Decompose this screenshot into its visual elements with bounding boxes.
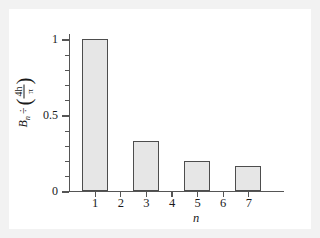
x-tick-label-4: 4 bbox=[162, 197, 182, 210]
y-tick-minor-0.7 bbox=[65, 85, 70, 86]
y-axis-title-variable: B bbox=[16, 120, 30, 127]
y-axis-title-fraction: 4hπ bbox=[13, 84, 34, 98]
x-tick-label-2: 2 bbox=[111, 197, 131, 210]
y-tick-major-0.5 bbox=[62, 115, 69, 116]
bar-n-1 bbox=[82, 39, 108, 191]
y-tick-minor-0.3 bbox=[65, 146, 70, 147]
y-axis-line bbox=[69, 34, 70, 192]
bar-chart: 0 0.5 1 1 2 3 4 5 6 7 Bn÷(4hπ) n bbox=[0, 0, 320, 238]
bar-n-5 bbox=[184, 161, 210, 191]
x-tick-label-3: 3 bbox=[136, 197, 156, 210]
y-tick-minor-0.9 bbox=[65, 55, 70, 56]
x-tick-label-6: 6 bbox=[213, 197, 233, 210]
y-tick-minor-0.2 bbox=[65, 161, 70, 162]
y-tick-label-0.5: 0.5 bbox=[43, 109, 58, 121]
bar-n-7 bbox=[235, 166, 261, 191]
y-tick-minor-0.1 bbox=[65, 176, 70, 177]
x-axis-title-label: n bbox=[193, 211, 199, 225]
x-tick-label-5: 5 bbox=[188, 197, 208, 210]
y-axis-title: Bn÷(4hπ) bbox=[14, 43, 35, 163]
y-tick-major-1 bbox=[62, 39, 69, 40]
x-axis-title: n bbox=[0, 212, 320, 225]
y-tick-minor-0.6 bbox=[65, 100, 70, 101]
y-axis-title-divide-symbol: ÷ bbox=[16, 107, 30, 114]
y-tick-label-0: 0 bbox=[52, 185, 58, 197]
x-tick-label-1: 1 bbox=[85, 197, 105, 210]
y-tick-minor-0.8 bbox=[65, 70, 70, 71]
y-axis-title-paren-open: ( bbox=[12, 98, 36, 105]
y-axis-title-subscript: n bbox=[22, 116, 32, 120]
y-axis-title-paren-close: ) bbox=[12, 77, 36, 84]
x-tick-label-7: 7 bbox=[239, 197, 259, 210]
bar-n-3 bbox=[133, 141, 159, 192]
y-tick-major-0 bbox=[62, 191, 69, 192]
fraction-denominator: π bbox=[25, 84, 35, 98]
fraction-numerator: 4h bbox=[13, 84, 25, 98]
y-tick-minor-0.4 bbox=[65, 131, 70, 132]
y-tick-label-1: 1 bbox=[52, 33, 58, 45]
